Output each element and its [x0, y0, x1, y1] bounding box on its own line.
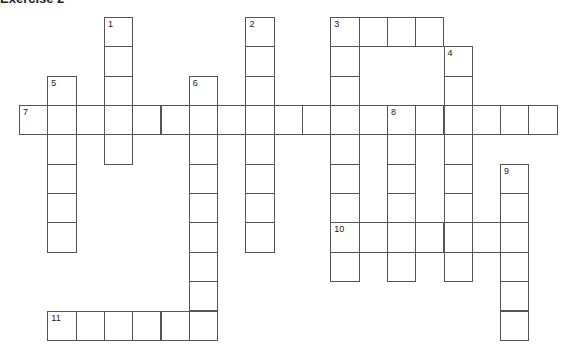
crossword-cell[interactable] — [189, 105, 218, 135]
crossword-cell[interactable] — [161, 105, 190, 135]
crossword-cell[interactable] — [330, 164, 359, 194]
crossword-cell[interactable] — [387, 252, 416, 282]
crossword-cell[interactable] — [189, 193, 218, 223]
crossword-cell[interactable]: 1 — [104, 17, 133, 47]
crossword-cell[interactable]: 11 — [47, 311, 76, 341]
crossword-cell[interactable] — [359, 105, 388, 135]
crossword-cell[interactable] — [245, 193, 274, 223]
crossword-cell[interactable] — [217, 105, 246, 135]
crossword-cell[interactable] — [189, 281, 218, 311]
crossword-cell[interactable] — [47, 222, 76, 252]
crossword-cell[interactable] — [500, 281, 529, 311]
crossword-cell[interactable] — [302, 105, 331, 135]
crossword-cell[interactable] — [444, 193, 473, 223]
clue-number: 2 — [249, 20, 254, 29]
crossword-cell[interactable] — [245, 76, 274, 106]
clue-number: 1 — [108, 20, 113, 29]
crossword-cell[interactable] — [472, 105, 501, 135]
clue-number: 3 — [334, 20, 339, 29]
crossword-cell[interactable] — [47, 164, 76, 194]
crossword-cell[interactable] — [189, 164, 218, 194]
crossword-cell[interactable] — [472, 222, 501, 252]
clue-number: 4 — [448, 49, 453, 58]
crossword-cell[interactable] — [444, 222, 473, 252]
crossword-cell[interactable] — [444, 105, 473, 135]
crossword-cell[interactable] — [245, 222, 274, 252]
crossword-cell[interactable] — [104, 134, 133, 164]
crossword-cell[interactable] — [415, 105, 444, 135]
crossword-cell[interactable] — [387, 193, 416, 223]
crossword-cell[interactable]: 7 — [19, 105, 48, 135]
crossword-cell[interactable] — [415, 17, 444, 47]
crossword-cell[interactable] — [500, 105, 529, 135]
crossword-cell[interactable]: 4 — [444, 46, 473, 76]
crossword-cell[interactable] — [47, 105, 76, 135]
crossword-cell[interactable] — [444, 134, 473, 164]
crossword-cell[interactable]: 9 — [500, 164, 529, 194]
crossword-cell[interactable] — [132, 105, 161, 135]
crossword-cell[interactable] — [245, 134, 274, 164]
clue-number: 5 — [51, 79, 56, 88]
crossword-grid: 1231045678911 — [0, 0, 571, 360]
clue-number: 11 — [51, 314, 60, 323]
clue-number: 7 — [23, 108, 28, 117]
crossword-cell[interactable] — [500, 252, 529, 282]
crossword-cell[interactable] — [189, 311, 218, 341]
crossword-cell[interactable] — [104, 46, 133, 76]
crossword-cell[interactable] — [387, 222, 416, 252]
crossword-cell[interactable] — [444, 252, 473, 282]
crossword-cell[interactable] — [387, 164, 416, 194]
clue-number: 9 — [504, 167, 509, 176]
crossword-cell[interactable] — [330, 76, 359, 106]
crossword-cell[interactable] — [132, 311, 161, 341]
crossword-cell[interactable] — [387, 17, 416, 47]
crossword-cell[interactable] — [274, 105, 303, 135]
crossword-cell[interactable] — [161, 311, 190, 341]
crossword-cell[interactable] — [104, 311, 133, 341]
crossword-cell[interactable] — [104, 105, 133, 135]
crossword-cell[interactable] — [245, 164, 274, 194]
crossword-cell[interactable] — [330, 193, 359, 223]
crossword-cell[interactable] — [189, 134, 218, 164]
clue-number: 6 — [193, 79, 198, 88]
crossword-cell[interactable]: 5 — [47, 76, 76, 106]
crossword-cell[interactable] — [47, 134, 76, 164]
clue-number: 8 — [391, 108, 396, 117]
crossword-cell[interactable] — [359, 17, 388, 47]
crossword-cell[interactable] — [359, 222, 388, 252]
clue-number: 10 — [334, 225, 344, 234]
crossword-cell[interactable]: 8 — [387, 105, 416, 135]
crossword-cell[interactable] — [330, 46, 359, 76]
crossword-cell[interactable]: 3 — [330, 17, 359, 47]
crossword-cell[interactable] — [330, 134, 359, 164]
crossword-cell[interactable] — [47, 193, 76, 223]
crossword-cell[interactable] — [245, 105, 274, 135]
crossword-cell[interactable] — [415, 222, 444, 252]
crossword-cell[interactable] — [387, 134, 416, 164]
crossword-cell[interactable] — [330, 105, 359, 135]
crossword-cell[interactable] — [500, 193, 529, 223]
crossword-cell[interactable]: 2 — [245, 17, 274, 47]
crossword-cell[interactable] — [104, 76, 133, 106]
crossword-cell[interactable] — [444, 164, 473, 194]
crossword-cell[interactable] — [330, 252, 359, 282]
crossword-cell[interactable] — [444, 76, 473, 106]
crossword-cell[interactable] — [245, 46, 274, 76]
crossword-cell[interactable] — [76, 105, 105, 135]
crossword-cell[interactable] — [76, 311, 105, 341]
crossword-cell[interactable] — [500, 222, 529, 252]
crossword-cell[interactable] — [500, 311, 529, 341]
crossword-cell[interactable] — [189, 222, 218, 252]
crossword-cell[interactable] — [528, 105, 557, 135]
crossword-cell[interactable] — [189, 252, 218, 282]
crossword-cell[interactable]: 10 — [330, 222, 359, 252]
crossword-cell[interactable]: 6 — [189, 76, 218, 106]
